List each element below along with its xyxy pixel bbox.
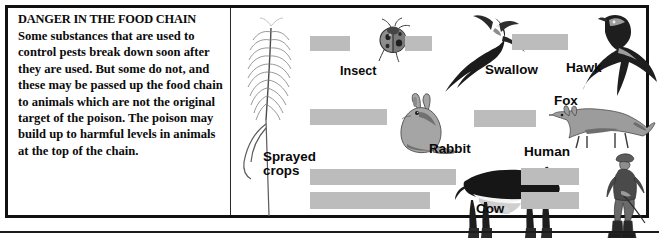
label-cow: Cow <box>476 202 504 216</box>
fox-illustration <box>551 102 655 148</box>
arrow-cow-to-human-upper <box>521 168 599 185</box>
illustration-page: DANGER IN THE FOOD CHAIN Some substances… <box>0 0 659 238</box>
human-figure-illustration <box>599 151 655 238</box>
label-hawk: Hawk <box>566 61 602 75</box>
text-column: DANGER IN THE FOOD CHAIN Some substances… <box>18 12 223 159</box>
hawk-bird-illustration <box>583 10 659 102</box>
label-insect: Insect <box>340 64 376 78</box>
label-human: Human <box>524 145 570 159</box>
page-bottom-rule <box>0 231 659 233</box>
label-rabbit: Rabbit <box>429 142 471 156</box>
label-swallow: Swallow <box>485 63 538 77</box>
arrow-swallow-to-hawk <box>512 34 586 50</box>
arrow-insect-to-swallow <box>405 36 447 51</box>
bar-crops-to-cow-upper <box>310 169 456 185</box>
arrow-crops-to-rabbit <box>310 109 405 125</box>
arrow-crops-to-insect <box>310 36 366 51</box>
arrow-cow-to-human-lower <box>521 192 599 209</box>
label-sprayed-crops: Sprayed crops <box>263 150 316 178</box>
food-chain-diagram: Insect Swallow <box>231 6 655 238</box>
arrow-crops-to-cow-lower <box>310 192 450 209</box>
label-fox: Fox <box>554 94 578 108</box>
arrow-rabbit-to-fox <box>474 110 556 127</box>
wheat-ear-illustration <box>233 20 303 220</box>
swallow-bird-illustration <box>443 12 527 98</box>
page-title: DANGER IN THE FOOD CHAIN <box>18 12 223 27</box>
body-paragraph: Some substances that are used to control… <box>18 28 223 159</box>
